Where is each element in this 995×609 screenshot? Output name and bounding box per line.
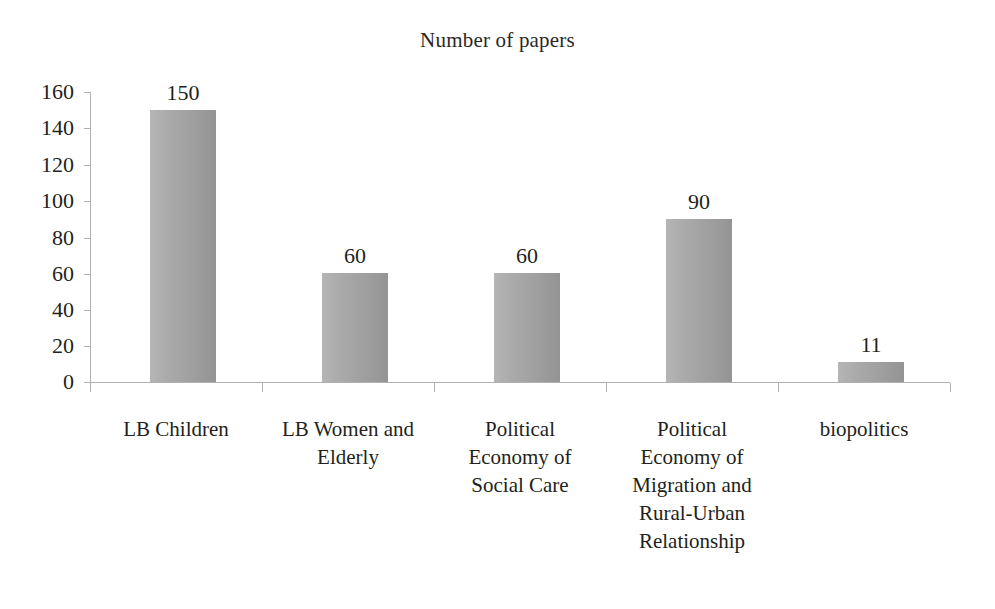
y-tick-label: 60 (14, 263, 74, 285)
y-tick (84, 310, 91, 311)
bar-biopolitics[interactable] (838, 362, 904, 382)
y-tick (84, 92, 91, 93)
bar-value-label: 60 (305, 245, 405, 267)
bar-value-label: 60 (477, 245, 577, 267)
y-tick (84, 346, 91, 347)
bar-value-label: 90 (649, 191, 749, 213)
bar-lb-children[interactable] (150, 110, 216, 382)
x-tick (90, 383, 91, 392)
bar-value-label: 11 (821, 334, 921, 356)
bar-value-label: 150 (133, 82, 233, 104)
bar-political-economy-of-social-care[interactable] (494, 273, 560, 382)
x-tick (262, 383, 263, 392)
category-label-lb-children: LB Children (83, 415, 269, 443)
bar-chart: Number of papers 160 140 120 (0, 0, 995, 609)
x-tick (778, 383, 779, 392)
bar-political-economy-of-migration[interactable] (666, 219, 732, 382)
bar-lb-women-and-elderly[interactable] (322, 273, 388, 382)
y-tick (84, 274, 91, 275)
y-tick-label: 120 (14, 154, 74, 176)
x-tick (606, 383, 607, 392)
category-label-political-economy-of-migration: Political Economy of Migration and Rural… (607, 415, 777, 555)
category-label-lb-women-and-elderly: LB Women and Elderly (255, 415, 441, 471)
y-tick (84, 238, 91, 239)
y-tick-label: 160 (14, 81, 74, 103)
y-tick (84, 165, 91, 166)
y-tick-label: 140 (14, 117, 74, 139)
y-tick-label: 80 (14, 227, 74, 249)
category-label-biopolitics: biopolitics (779, 415, 949, 443)
category-label-political-economy-of-social-care: Political Economy of Social Care (435, 415, 605, 499)
y-tick (84, 201, 91, 202)
y-tick-label: 40 (14, 299, 74, 321)
y-tick-label: 100 (14, 190, 74, 212)
x-tick (950, 383, 951, 392)
y-tick-label: 0 (14, 371, 74, 393)
y-tick (84, 128, 91, 129)
x-tick (434, 383, 435, 392)
x-axis-line (90, 382, 950, 383)
y-tick-label: 20 (14, 335, 74, 357)
plot-area: 160 140 120 100 80 60 40 20 (0, 0, 995, 609)
